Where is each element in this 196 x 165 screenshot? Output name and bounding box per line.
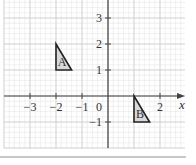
x-axis-label: x (178, 97, 185, 112)
y-tick-label: 3 (96, 11, 102, 25)
triangle-label-b: B (136, 107, 144, 121)
y-tick-label: 1 (96, 63, 102, 77)
coordinate-grid-figure: AB −3−2−12321−10x (0, 0, 196, 165)
y-tick-label: −1 (89, 115, 102, 129)
x-tick-label: −1 (76, 100, 89, 114)
x-tick-label: −3 (24, 100, 37, 114)
separator-line (0, 156, 186, 158)
coordinate-plane: AB −3−2−12321−10x (0, 0, 196, 165)
x-tick-label: −2 (50, 100, 63, 114)
origin-label: 0 (96, 100, 102, 114)
triangle-label-a: A (58, 55, 67, 69)
x-tick-label: 2 (157, 100, 163, 114)
y-tick-label: 2 (96, 37, 102, 51)
